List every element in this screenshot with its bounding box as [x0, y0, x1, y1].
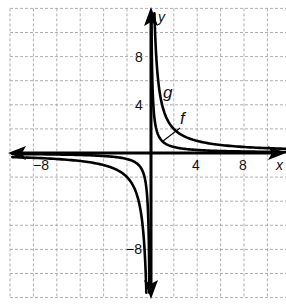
curve-f-negative-branch	[12, 154, 149, 293]
f-leader-line	[163, 128, 180, 141]
y-tick-label-8: 8	[135, 49, 143, 65]
x-tick-label-4: 4	[192, 157, 200, 173]
x-tick-label-neg8: −8	[33, 157, 49, 173]
x-tick-label-8: 8	[239, 157, 247, 173]
coordinate-plane: −8 4 8 x 8 4 −8 y g f	[0, 0, 286, 304]
y-tick-label-neg8: −8	[126, 241, 142, 257]
function-label-f: f	[180, 109, 187, 128]
function-label-g: g	[163, 83, 173, 102]
x-axis-label: x	[275, 157, 284, 173]
y-axis-label: y	[157, 9, 166, 25]
y-tick-label-4: 4	[135, 97, 143, 113]
